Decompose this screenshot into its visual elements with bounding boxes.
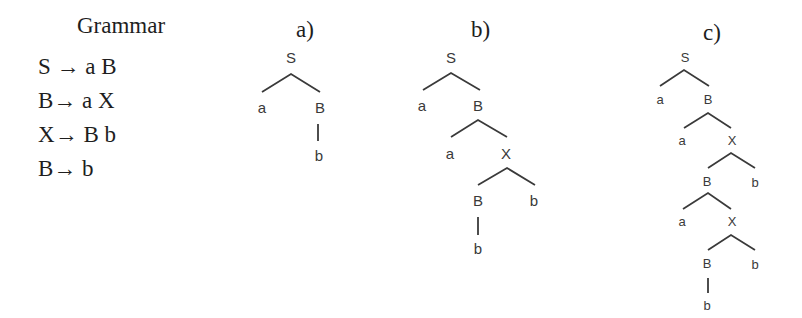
- node-a: a: [418, 97, 427, 114]
- node-b: b: [751, 257, 758, 272]
- node-b: b: [315, 147, 323, 164]
- grammar-rule-1: S → a B: [38, 54, 117, 79]
- node-X: X: [728, 214, 737, 229]
- node-X: X: [728, 133, 737, 148]
- grammar-rule-4: B→ b: [38, 156, 94, 181]
- node-a: a: [656, 92, 664, 107]
- node-b: b: [530, 192, 538, 209]
- grammar-title: Grammar: [77, 13, 165, 38]
- tree-a-label: a): [296, 17, 314, 42]
- grammar-rule-3: X→ B b: [38, 122, 116, 147]
- node-b: b: [751, 175, 758, 190]
- tree-b-label: b): [471, 17, 490, 42]
- grammar-panel: Grammar S → a B B→ a X X→ B b B→ b: [38, 13, 165, 181]
- parse-tree-a: a) S a B b: [258, 17, 325, 164]
- node-B: B: [473, 97, 483, 114]
- tree-edge: [478, 168, 535, 185]
- node-B: B: [315, 99, 325, 116]
- tree-edge: [684, 113, 731, 128]
- node-b: b: [703, 298, 710, 313]
- node-X: X: [501, 145, 511, 162]
- node-a: a: [678, 214, 686, 229]
- tree-edge: [423, 73, 480, 90]
- node-S: S: [446, 49, 456, 66]
- node-B: B: [703, 256, 712, 271]
- tree-edge: [262, 74, 320, 92]
- tree-edge: [708, 153, 755, 168]
- grammar-rule-2: B→ a X: [38, 88, 115, 113]
- tree-edge: [451, 120, 507, 137]
- node-B: B: [704, 92, 713, 107]
- node-a: a: [678, 133, 686, 148]
- node-S: S: [681, 50, 690, 65]
- node-S: S: [286, 49, 296, 66]
- tree-edge: [708, 235, 755, 250]
- parse-tree-figure: Grammar S → a B B→ a X X→ B b B→ b a) S …: [0, 0, 802, 318]
- node-a: a: [258, 99, 267, 116]
- node-B: B: [703, 174, 712, 189]
- node-B: B: [473, 192, 483, 209]
- parse-tree-b: b) S a B a X B b b: [418, 17, 538, 257]
- tree-c-label: c): [703, 20, 721, 45]
- node-a: a: [446, 145, 455, 162]
- node-b: b: [474, 240, 482, 257]
- parse-tree-c: c) S a B a X B b a X B b b: [656, 20, 758, 313]
- tree-edge: [660, 70, 709, 86]
- tree-edge: [683, 193, 731, 209]
